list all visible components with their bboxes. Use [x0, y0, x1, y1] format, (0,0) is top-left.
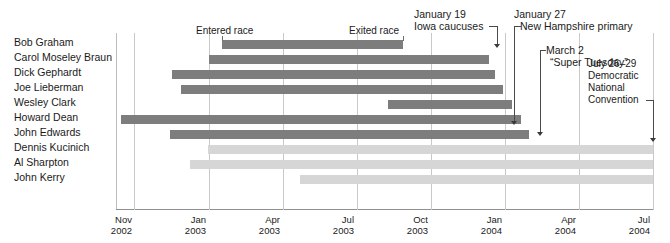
- xtick-nov-2002-month: Nov: [74, 214, 132, 225]
- bar-howard-dean[interactable]: [121, 115, 521, 124]
- xtick-oct-2003: Oct 2003: [370, 214, 428, 236]
- xtick-jan-2003: Jan 2003: [148, 214, 206, 236]
- annotation-supertuesday-leader-v: [540, 50, 541, 134]
- xtick-nov-2002: Nov 2002: [74, 214, 132, 236]
- annotation-convention-line4: Convention: [588, 94, 639, 106]
- legend-entered-race-tick: [222, 36, 223, 41]
- legend-entered-race-label: Entered race: [196, 25, 253, 36]
- annotation-nh-line1: January 27: [514, 8, 566, 20]
- timeline-chart: Bob Graham Carol Moseley Braun Dick Geph…: [0, 0, 670, 243]
- xtick-oct-2003-month: Oct: [370, 214, 428, 225]
- xtick-jul-2003-month: Jul: [296, 214, 354, 225]
- annotation-nh-leader-v: [514, 26, 515, 123]
- x-axis-line: [116, 209, 654, 210]
- bar-john-edwards[interactable]: [170, 130, 529, 139]
- xtick-jul-2003-year: 2003: [296, 225, 354, 236]
- candidate-label-al-sharpton: Al Sharpton: [14, 157, 112, 168]
- annotation-convention-line2: Democratic: [588, 70, 639, 82]
- xtick-jul-2003: Jul 2003: [296, 214, 354, 236]
- annotation-iowa-leader-v: [497, 26, 498, 46]
- bar-bob-graham[interactable]: [222, 40, 403, 49]
- xtick-apr-2003-month: Apr: [222, 214, 280, 225]
- annotation-convention-line3: National: [588, 82, 625, 94]
- xtick-jul-2004-year: 2004: [592, 225, 650, 236]
- xtick-apr-2004-year: 2004: [518, 225, 576, 236]
- bar-wesley-clark[interactable]: [388, 100, 512, 109]
- bar-dennis-kucinich[interactable]: [208, 145, 653, 154]
- candidate-label-wesley-clark: Wesley Clark: [14, 97, 112, 108]
- bar-john-kerry[interactable]: [300, 175, 653, 184]
- xtick-oct-2003-year: 2003: [370, 225, 428, 236]
- candidate-label-joe-lieberman: Joe Lieberman: [14, 82, 112, 93]
- xtick-apr-2003: Apr 2003: [222, 214, 280, 236]
- candidate-label-carol-moseley-braun: Carol Moseley Braun: [14, 52, 112, 63]
- candidate-label-dick-gephardt: Dick Gephardt: [14, 67, 112, 78]
- legend-exited-race-tick: [403, 36, 404, 41]
- candidate-label-bob-graham: Bob Graham: [14, 37, 112, 48]
- annotation-supertuesday-arrow: [537, 132, 543, 136]
- xtick-jan-2004: Jan 2004: [444, 214, 502, 236]
- annotation-iowa-line1: January 19: [414, 8, 466, 20]
- xtick-apr-2004: Apr 2004: [518, 214, 576, 236]
- xtick-jan-2003-year: 2003: [148, 225, 206, 236]
- candidate-label-john-kerry: John Kerry: [14, 172, 112, 183]
- xtick-nov-2002-year: 2002: [74, 225, 132, 236]
- annotation-iowa-arrow: [494, 44, 500, 48]
- annotation-nh-arrow: [511, 121, 517, 125]
- legend-exited-race-label: Exited race: [349, 25, 399, 36]
- annotation-convention-arrow: [650, 138, 656, 142]
- bar-dick-gephardt[interactable]: [172, 70, 495, 79]
- candidate-label-john-edwards: John Edwards: [14, 127, 112, 138]
- xtick-apr-2003-year: 2003: [222, 225, 280, 236]
- xtick-jan-2004-year: 2004: [444, 225, 502, 236]
- annotation-convention-line1: July 26–29: [588, 58, 636, 70]
- xtick-jan-2004-month: Jan: [444, 214, 502, 225]
- annotation-supertuesday-line1: March 2: [546, 44, 584, 56]
- candidate-label-dennis-kucinich: Dennis Kucinich: [14, 142, 112, 153]
- xtick-jul-2004: Jul 2004: [592, 214, 650, 236]
- annotation-iowa-line2: Iowa caucuses: [414, 20, 483, 32]
- bar-joe-lieberman[interactable]: [181, 85, 503, 94]
- y-axis-line: [116, 33, 117, 210]
- annotation-nh-leader-h: [514, 26, 521, 27]
- bar-carol-moseley-braun[interactable]: [209, 55, 489, 64]
- bar-al-sharpton[interactable]: [190, 160, 653, 169]
- annotation-nh-line2: New Hampshire primary: [520, 20, 633, 32]
- xtick-jan-2003-month: Jan: [148, 214, 206, 225]
- xtick-jul-2004-month: Jul: [592, 214, 650, 225]
- candidate-label-howard-dean: Howard Dean: [14, 112, 112, 123]
- annotation-convention-leader-v: [653, 100, 654, 140]
- xtick-apr-2004-month: Apr: [518, 214, 576, 225]
